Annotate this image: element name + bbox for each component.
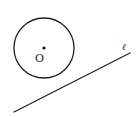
line-l [14,53,130,112]
center-point [42,46,45,49]
geometry-diagram: O ℓ [0,0,138,117]
line-label: ℓ [122,42,126,52]
center-label: O [35,52,44,65]
